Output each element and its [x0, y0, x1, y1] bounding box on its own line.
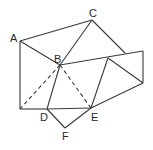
- edge-inner-right: [108, 58, 143, 83]
- dashed-edges: [20, 65, 91, 109]
- point-labels: A B C D E F: [10, 7, 98, 142]
- edge-d-f: [47, 109, 65, 128]
- label-c: C: [89, 7, 97, 19]
- label-d: D: [40, 111, 48, 123]
- label-b: B: [54, 53, 61, 65]
- edge-c-b: [60, 20, 92, 65]
- label-f: F: [62, 130, 69, 142]
- edge-b-e-dashed: [60, 65, 91, 108]
- label-a: A: [10, 32, 18, 44]
- edge-d-e: [47, 108, 91, 109]
- solid-edges: [20, 20, 143, 128]
- edge-f-e: [65, 108, 91, 128]
- label-e: E: [91, 111, 98, 123]
- edge-b-top-right: [60, 51, 143, 65]
- edge-a-c: [20, 20, 92, 41]
- edge-c-right: [92, 20, 125, 53]
- geometry-diagram: A B C D E F: [0, 0, 153, 150]
